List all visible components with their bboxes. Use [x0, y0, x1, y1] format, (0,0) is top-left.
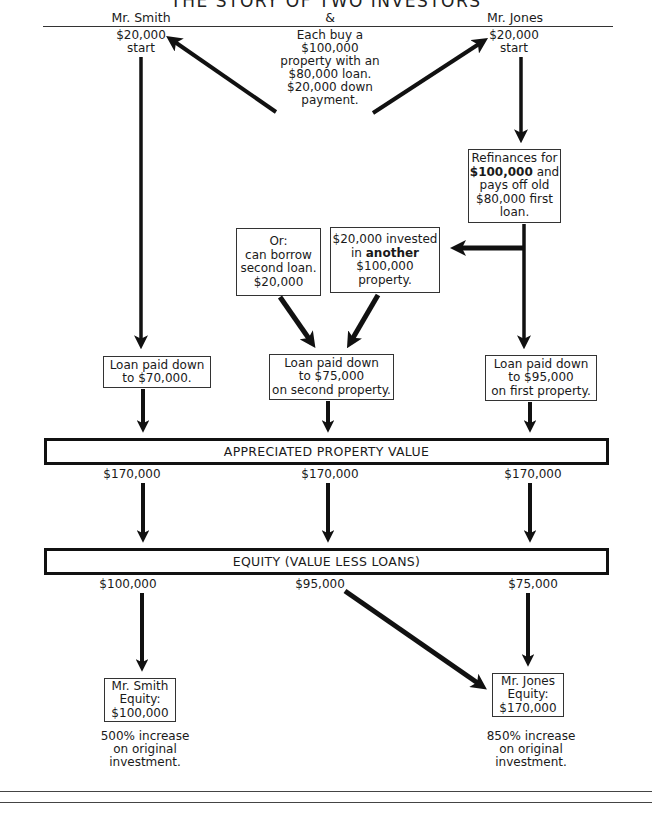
- arrow-intro-to-jones: [373, 42, 482, 113]
- arrow-borrow-to-middle-loan: [280, 297, 312, 343]
- arrow-intro-to-smith: [172, 40, 276, 112]
- arrow-invested-to-middle-loan: [350, 295, 378, 343]
- arrows-layer: [0, 0, 652, 821]
- arrow-middle-equity-to-jones-final: [345, 591, 482, 686]
